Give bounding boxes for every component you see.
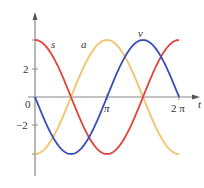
chart: s a v t 0 π 2 π 2 −2 [0,0,204,188]
label-t: t [198,98,202,110]
label-two-pi: 2 π [171,102,185,114]
y-axis-arrow-icon [33,12,38,20]
label-origin: 0 [25,98,31,110]
label-a: a [81,38,87,50]
label-s: s [51,38,55,50]
label-y-2: 2 [23,63,29,75]
label-y-neg2: −2 [16,119,28,131]
label-pi: π [104,102,110,114]
label-v: v [138,27,143,39]
